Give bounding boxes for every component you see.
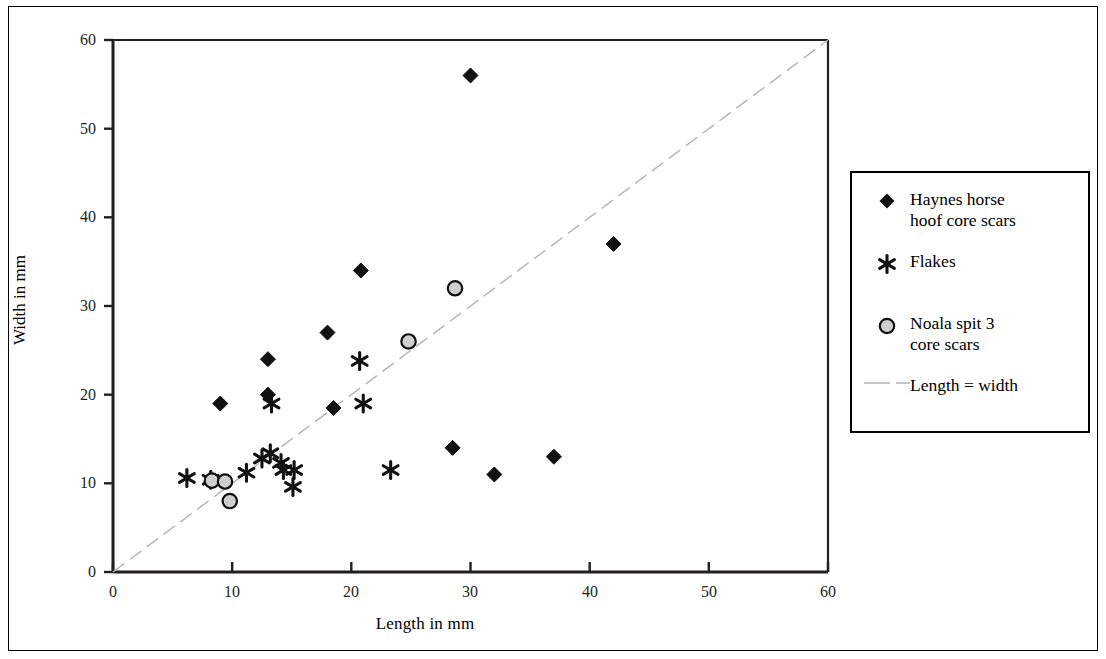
data-point xyxy=(223,494,237,508)
y-tick-label-20: 20 xyxy=(56,386,96,404)
plot-area xyxy=(104,40,828,572)
dashed-line-marker-icon xyxy=(864,375,910,389)
filled-diamond-marker-icon xyxy=(864,189,910,211)
x-tick-label-60: 60 xyxy=(808,583,848,601)
y-tick-label-10: 10 xyxy=(56,474,96,492)
legend-item-flakes[interactable]: Flakes xyxy=(864,251,956,275)
y-axis-title: Width in mm xyxy=(10,220,30,380)
y-tick-label-40: 40 xyxy=(56,208,96,226)
x-tick-label-40: 40 xyxy=(570,583,610,601)
data-point xyxy=(326,400,341,415)
data-point xyxy=(239,464,254,481)
legend-label-flakes: Flakes xyxy=(910,251,956,272)
y-tick-label-60: 60 xyxy=(56,31,96,49)
data-markers-layer xyxy=(179,68,621,508)
data-point xyxy=(401,334,415,348)
data-point xyxy=(546,449,561,464)
legend-label-reference-line: Length = width xyxy=(910,375,1018,396)
data-point xyxy=(218,474,232,488)
x-tick-label-30: 30 xyxy=(450,583,490,601)
data-point xyxy=(353,263,368,278)
data-point xyxy=(445,440,460,455)
x-tick-label-0: 0 xyxy=(93,583,133,601)
gray-circle-marker-icon xyxy=(864,313,910,337)
data-point xyxy=(356,395,371,412)
y-tick-label-30: 30 xyxy=(56,297,96,315)
x-tick-label-20: 20 xyxy=(331,583,371,601)
data-point xyxy=(287,462,302,479)
data-point xyxy=(383,462,398,479)
data-point xyxy=(213,396,228,411)
y-tick-label-50: 50 xyxy=(56,120,96,138)
legend: Haynes horse hoof core scars Flakes Noal… xyxy=(850,171,1090,433)
data-point xyxy=(463,68,478,83)
legend-item-haynes[interactable]: Haynes horse hoof core scars xyxy=(864,189,1016,231)
data-point xyxy=(320,325,335,340)
x-axis-title: Length in mm xyxy=(0,614,850,634)
series-filled-diamond xyxy=(213,68,621,482)
data-point xyxy=(179,470,194,487)
data-point xyxy=(286,478,301,495)
asterisk-marker-icon xyxy=(864,251,910,275)
data-point xyxy=(352,352,367,369)
legend-label-haynes: Haynes horse hoof core scars xyxy=(910,189,1016,231)
legend-item-noala[interactable]: Noala spit 3 core scars xyxy=(864,313,995,355)
scatter-plot-figure: 0 10 20 30 40 50 60 0 10 20 30 40 50 60 … xyxy=(0,0,1106,659)
legend-label-noala: Noala spit 3 core scars xyxy=(910,313,995,355)
x-tick-label-50: 50 xyxy=(689,583,729,601)
data-point xyxy=(606,236,621,251)
x-tick-label-10: 10 xyxy=(212,583,252,601)
reference-line-length-equals-width xyxy=(113,40,828,572)
y-tick-label-0: 0 xyxy=(56,563,96,581)
legend-item-reference-line[interactable]: Length = width xyxy=(864,375,1018,396)
data-point xyxy=(487,467,502,482)
data-point xyxy=(260,352,275,367)
data-point xyxy=(448,281,462,295)
